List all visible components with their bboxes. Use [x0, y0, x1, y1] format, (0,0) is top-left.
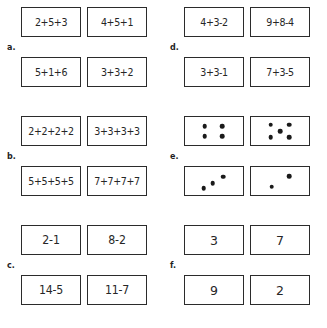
answer-box[interactable]: 4+3-2	[184, 7, 244, 37]
expression-text: 3+3+3+3	[94, 125, 139, 137]
expression-text: 5+5+5+5	[28, 175, 73, 187]
answer-box[interactable]: 9+8-4	[250, 7, 310, 37]
expression-text: 4+5+1	[101, 16, 133, 28]
group-label: a.	[7, 43, 15, 52]
dot-marker	[287, 135, 292, 140]
answer-box[interactable]: 5+1+6	[21, 57, 81, 87]
answer-box[interactable]: 11-7	[87, 275, 147, 305]
dot-pattern	[185, 117, 243, 145]
group-label: f.	[170, 261, 176, 270]
dot-marker	[287, 123, 292, 128]
dot-marker	[201, 186, 206, 191]
dot-marker	[202, 134, 207, 139]
exercise-group-b: b.2+2+2+23+3+3+35+5+5+57+7+7+7	[0, 109, 163, 218]
dot-marker	[278, 129, 283, 134]
expression-text: 2	[276, 282, 284, 298]
group-label: e.	[170, 152, 178, 161]
expression-text: 8-2	[108, 233, 125, 247]
expression-text: 4+3-2	[200, 16, 228, 28]
expression-text: 7+3-5	[266, 66, 294, 78]
expression-text: 2+2+2+2	[28, 125, 73, 137]
expression-text: 14-5	[39, 283, 63, 297]
answer-box[interactable]: 7	[250, 225, 310, 255]
dot-pattern	[185, 167, 243, 195]
answer-box[interactable]: 3+3+2	[87, 57, 147, 87]
answer-box[interactable]: 4+5+1	[87, 7, 147, 37]
exercise-group-d: d.4+3-29+8-43+3-17+3-5	[163, 0, 326, 109]
answer-box[interactable]: 2+5+3	[21, 7, 81, 37]
group-label: b.	[7, 152, 16, 161]
dot-marker	[220, 124, 225, 129]
dot-pattern	[251, 167, 309, 195]
answer-box[interactable]: 3+3+3+3	[87, 116, 147, 146]
dot-marker	[202, 124, 207, 129]
exercise-group-e: e.	[163, 109, 326, 218]
expression-text: 9+8-4	[266, 16, 294, 28]
answer-box[interactable]	[250, 166, 310, 196]
answer-box[interactable]: 2	[250, 275, 310, 305]
expression-text: 3+3+2	[101, 66, 133, 78]
group-label: c.	[7, 261, 15, 270]
expression-text: 3	[210, 232, 218, 248]
dot-marker	[270, 184, 275, 189]
expression-text: 5+1+6	[35, 66, 67, 78]
dot-marker	[268, 135, 273, 140]
dot-marker	[221, 174, 226, 179]
dot-marker	[220, 134, 225, 139]
answer-box[interactable]: 9	[184, 275, 244, 305]
answer-box[interactable]: 2-1	[21, 225, 81, 255]
group-label: d.	[170, 43, 179, 52]
dot-marker	[268, 123, 273, 128]
answer-box[interactable]: 7+7+7+7	[87, 166, 147, 196]
dot-pattern	[251, 117, 309, 145]
answer-box[interactable]	[250, 116, 310, 146]
expression-text: 2-1	[42, 233, 59, 247]
answer-box[interactable]: 8-2	[87, 225, 147, 255]
expression-text: 11-7	[105, 283, 129, 297]
exercise-group-c: c.2-18-214-511-7	[0, 218, 163, 327]
expression-text: 2+5+3	[35, 16, 67, 28]
exercise-group-f: f.3792	[163, 218, 326, 327]
answer-box[interactable]	[184, 166, 244, 196]
dot-marker	[211, 181, 216, 186]
expression-text: 9	[210, 282, 218, 298]
answer-box[interactable]: 3	[184, 225, 244, 255]
answer-box[interactable]: 5+5+5+5	[21, 166, 81, 196]
answer-box[interactable]: 7+3-5	[250, 57, 310, 87]
worksheet: a.2+5+34+5+15+1+63+3+2d.4+3-29+8-43+3-17…	[0, 0, 327, 328]
answer-box[interactable]	[184, 116, 244, 146]
expression-text: 3+3-1	[200, 66, 228, 78]
answer-box[interactable]: 14-5	[21, 275, 81, 305]
expression-text: 7	[276, 232, 284, 248]
answer-box[interactable]: 3+3-1	[184, 57, 244, 87]
expression-text: 7+7+7+7	[94, 175, 139, 187]
dot-marker	[287, 174, 292, 179]
answer-box[interactable]: 2+2+2+2	[21, 116, 81, 146]
exercise-group-a: a.2+5+34+5+15+1+63+3+2	[0, 0, 163, 109]
